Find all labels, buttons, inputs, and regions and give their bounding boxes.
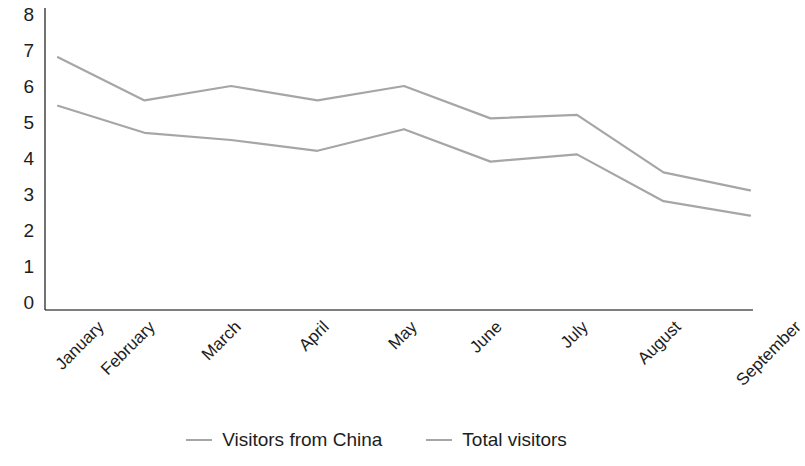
line-swatch-icon [186, 439, 212, 441]
legend-item-visitors-from-china[interactable]: Visitors from China [186, 430, 382, 449]
legend-label: Total visitors [462, 430, 567, 449]
chart-legend: Visitors from China Total visitors [0, 430, 753, 449]
legend-label: Visitors from China [222, 430, 382, 449]
legend-item-total-visitors[interactable]: Total visitors [426, 430, 567, 449]
line-swatch-icon [426, 439, 452, 441]
series-line-total-visitors [58, 57, 750, 190]
